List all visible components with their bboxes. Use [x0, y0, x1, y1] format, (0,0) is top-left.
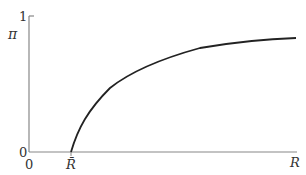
x-axis-label: R — [290, 156, 300, 169]
y-axis-label: π — [8, 27, 17, 41]
y-tick-label-1: 1 — [19, 10, 27, 23]
chart-canvas — [0, 0, 306, 175]
x-tick-label-rbar: R̄ — [66, 158, 76, 171]
x-tick-label-0: 0 — [25, 158, 33, 171]
pi-curve — [71, 38, 296, 152]
